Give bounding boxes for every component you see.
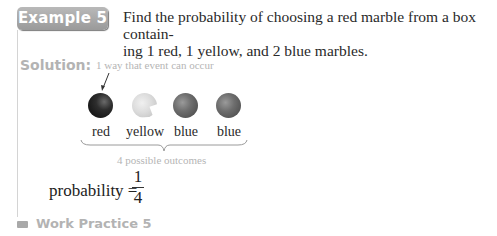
margin-rule bbox=[17, 30, 18, 217]
event-annotation: 1 way that event can occur bbox=[96, 59, 214, 71]
work-practice-icon bbox=[17, 221, 28, 228]
problem-line-1: Find the probability of choosing a red m… bbox=[123, 8, 493, 42]
marble-label: blue bbox=[204, 124, 254, 140]
blue-marble-icon bbox=[216, 93, 241, 118]
denominator: 4 bbox=[132, 189, 144, 207]
problem-statement: Find the probability of choosing a red m… bbox=[123, 8, 493, 59]
problem-line-2: ing 1 red, 1 yellow, and 2 blue marbles. bbox=[123, 42, 493, 59]
probability-label: probability = bbox=[49, 181, 137, 201]
solution-label: Solution: bbox=[20, 57, 91, 73]
blue-marble-icon bbox=[173, 93, 198, 118]
example-badge: Example 5 bbox=[17, 7, 108, 30]
marble-label: red bbox=[76, 124, 126, 140]
yellow-marble-icon bbox=[132, 93, 157, 118]
red-marble-icon bbox=[88, 93, 113, 118]
probability-fraction: 1 4 bbox=[132, 168, 144, 207]
brace-icon bbox=[80, 139, 248, 153]
arrow-icon bbox=[100, 72, 112, 92]
outcomes-label: 4 possible outcomes bbox=[117, 154, 206, 166]
numerator: 1 bbox=[132, 168, 144, 186]
work-practice-label: Work Practice 5 bbox=[36, 216, 152, 231]
